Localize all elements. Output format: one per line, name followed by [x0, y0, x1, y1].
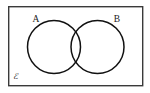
universal-set-rectangle [9, 7, 143, 86]
set-label-b: B [114, 14, 120, 24]
set-label-a: A [33, 14, 40, 24]
venn-diagram-canvas: A B ℰ [0, 0, 150, 93]
venn-diagram-figure: A B ℰ [0, 0, 150, 93]
